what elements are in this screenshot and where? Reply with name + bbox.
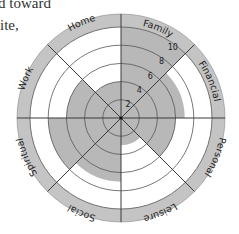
tick-label: 8 bbox=[159, 57, 164, 66]
tick-label: 2 bbox=[125, 100, 130, 109]
wheel-of-life-chart: FamilyFinancialPersonalLeisureSocialSpir… bbox=[0, 0, 239, 234]
center-point bbox=[119, 116, 122, 119]
tick-label: 4 bbox=[137, 86, 142, 95]
tick-label: 10 bbox=[168, 43, 178, 52]
tick-label: 6 bbox=[148, 72, 153, 81]
